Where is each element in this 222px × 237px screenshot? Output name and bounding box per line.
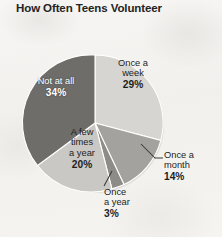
- chart-title: How Often Teens Volunteer: [16, 2, 216, 14]
- slice-value-once-a-week: 29%: [104, 79, 162, 90]
- slice-label-once-a-week-line1: Once a: [118, 58, 148, 68]
- slice-label-not-at-all: Not at all 34%: [24, 76, 88, 98]
- slice-label-once-a-year-line1: Once: [104, 187, 126, 197]
- slice-label-a-few-times-a-year-line1: A few: [71, 127, 94, 137]
- slice-label-a-few-times-a-year-line3: a year: [69, 148, 95, 158]
- slice-label-once-a-month-line1: Once a: [164, 150, 194, 160]
- slice-value-a-few-times-a-year: 20%: [55, 159, 109, 170]
- slice-label-once-a-month-line2: month: [164, 160, 190, 170]
- slice-value-once-a-month: 14%: [164, 171, 220, 182]
- slice-value-not-at-all: 34%: [24, 87, 88, 98]
- slice-label-once-a-month: Once a month 14%: [164, 150, 220, 183]
- slice-value-once-a-year: 3%: [104, 208, 154, 219]
- slice-label-a-few-times-a-year: A few times a year 20%: [55, 127, 109, 170]
- slice-label-once-a-week-line2: week: [122, 68, 144, 78]
- slice-label-a-few-times-a-year-line2: times: [71, 137, 93, 147]
- slice-label-once-a-year-line2: a year: [104, 197, 130, 207]
- slice-label-once-a-year: Once a year 3%: [104, 187, 154, 220]
- slice-label-not-at-all-line1: Not at all: [38, 76, 75, 86]
- slice-label-once-a-week: Once a week 29%: [104, 58, 162, 91]
